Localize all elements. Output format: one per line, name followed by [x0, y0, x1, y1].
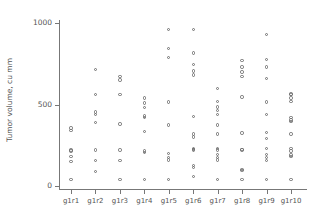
data-point: [143, 96, 146, 99]
data-point: [289, 100, 292, 103]
data-point: [240, 148, 243, 151]
data-point: [265, 65, 268, 68]
data-point: [289, 96, 292, 99]
x-tick-label-g1r1: g1r1: [63, 197, 79, 205]
data-point: [289, 178, 292, 181]
data-point: [192, 69, 195, 72]
data-point: [192, 132, 195, 135]
data-point: [192, 135, 195, 138]
data-point: [94, 148, 97, 151]
data-point: [289, 92, 292, 95]
data-point: [192, 147, 195, 150]
data-point: [216, 123, 219, 126]
data-point: [240, 178, 243, 181]
data-point: [240, 70, 243, 73]
data-point: [240, 59, 243, 62]
data-point: [69, 126, 72, 129]
x-tick-label-g1r6: g1r6: [185, 197, 201, 205]
data-point: [216, 105, 219, 108]
y-tick-label: 1000: [12, 19, 52, 27]
x-tick-label-g1r5: g1r5: [161, 197, 177, 205]
x-tick-mark: [71, 190, 72, 194]
data-point: [240, 65, 243, 68]
data-point: [143, 149, 146, 152]
x-tick-label-g1r3: g1r3: [112, 197, 128, 205]
data-point: [192, 73, 195, 76]
x-tick-mark: [169, 190, 170, 194]
data-point: [240, 131, 243, 134]
x-tick-mark: [218, 190, 219, 194]
x-tick-label-g1r10: g1r10: [281, 197, 302, 205]
data-point: [69, 160, 72, 163]
data-point: [143, 130, 146, 133]
scatter-plot: Tumor volume, cu mm 05001000 g1r1g1r2g1r…: [0, 0, 320, 222]
y-tick-label: 0: [12, 182, 52, 190]
data-point: [192, 51, 195, 54]
data-point: [94, 110, 97, 113]
data-point: [69, 148, 72, 151]
data-point: [143, 114, 146, 117]
data-point: [289, 116, 292, 119]
data-point: [69, 178, 72, 181]
x-tick-label-g1r2: g1r2: [87, 197, 103, 205]
x-tick-mark: [95, 190, 96, 194]
data-point: [289, 153, 292, 156]
data-point: [118, 148, 121, 151]
x-tick-mark: [193, 190, 194, 194]
data-point: [289, 132, 292, 135]
data-point: [265, 100, 268, 103]
x-tick-label-g1r9: g1r9: [258, 197, 274, 205]
data-point: [192, 175, 195, 178]
x-tick-mark: [242, 190, 243, 194]
x-tick-mark: [120, 190, 121, 194]
data-point: [143, 101, 146, 104]
data-point: [118, 178, 121, 181]
data-point: [216, 132, 219, 135]
x-tick-label-g1r7: g1r7: [210, 197, 226, 205]
data-point: [118, 122, 121, 125]
y-tick-mark: [55, 186, 59, 187]
x-tick-label-g1r4: g1r4: [136, 197, 152, 205]
y-tick-label: 500: [12, 101, 52, 109]
data-point: [289, 147, 292, 150]
x-tick-label-g1r8: g1r8: [234, 197, 250, 205]
x-tick-mark: [267, 190, 268, 194]
data-point: [240, 95, 243, 98]
data-point: [118, 78, 121, 81]
x-tick-mark: [144, 190, 145, 194]
x-tick-mark: [291, 190, 292, 194]
